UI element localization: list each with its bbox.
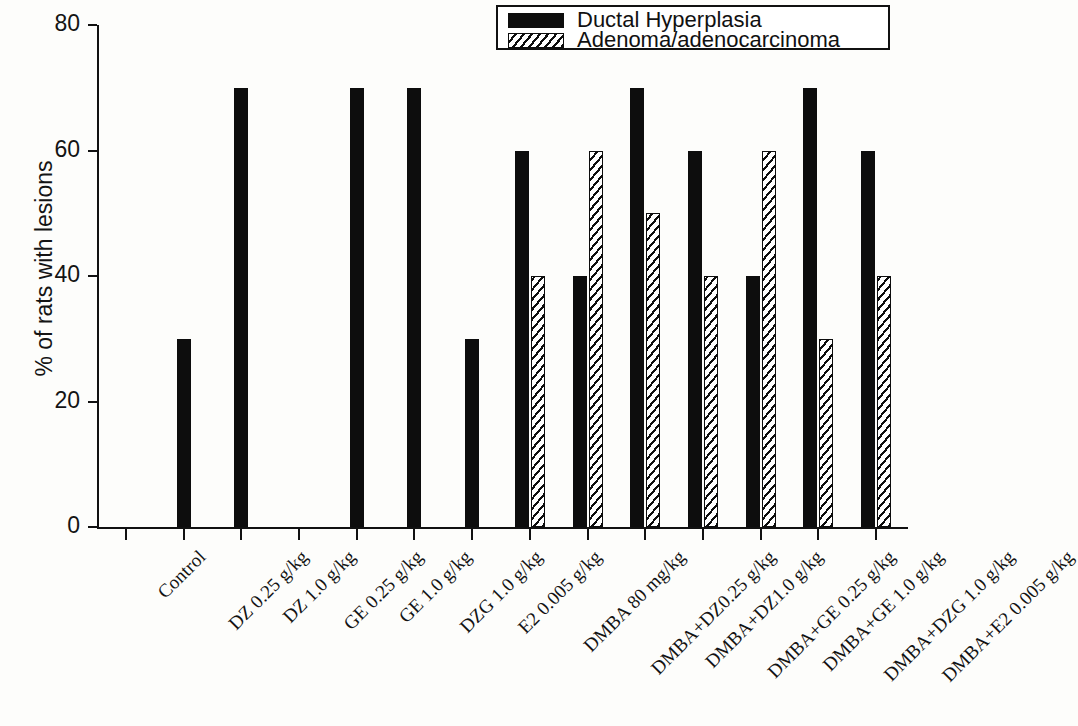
bar-ductal-hyperplasia-2 (234, 88, 248, 527)
bar-ductal-hyperplasia-11 (746, 276, 760, 527)
y-axis-tick (88, 275, 97, 277)
bar-adenoma-adenocarcinoma-7 (531, 276, 545, 527)
x-axis-tick (413, 529, 415, 540)
y-axis-tick (88, 526, 97, 528)
x-axis-tick (817, 529, 819, 540)
x-axis-labels: ControlDZ 0.25 g/kgDZ 1.0 g/kgGE 0.25 g/… (0, 540, 916, 726)
bar-adenoma-adenocarcinoma-12 (819, 339, 833, 527)
x-axis-tick (183, 529, 185, 540)
bar-adenoma-adenocarcinoma-11 (762, 151, 776, 528)
bar-ductal-hyperplasia-4 (350, 88, 364, 527)
x-axis-tick (529, 529, 531, 540)
y-axis-tick (88, 24, 97, 26)
y-axis-tick-label: 60 (0, 136, 80, 163)
x-axis-tick (760, 529, 762, 540)
x-axis-tick (875, 529, 877, 540)
x-axis-tick (240, 529, 242, 540)
bar-ductal-hyperplasia-8 (573, 276, 587, 527)
bar-ductal-hyperplasia-1 (177, 339, 191, 527)
y-axis-tick-label: 0 (0, 512, 80, 539)
bar-ductal-hyperplasia-10 (688, 151, 702, 528)
bar-ductal-hyperplasia-7 (515, 151, 529, 528)
x-axis-tick (644, 529, 646, 540)
bar-adenoma-adenocarcinoma-9 (646, 213, 660, 527)
legend-label: Adenoma/adenocarcinoma (577, 27, 840, 53)
x-axis-tick (298, 529, 300, 540)
x-axis-tick (471, 529, 473, 540)
y-axis-tick-label: 20 (0, 387, 80, 414)
bar-ductal-hyperplasia-12 (803, 88, 817, 527)
legend-hatched-swatch-icon (508, 33, 564, 48)
x-axis-tick (702, 529, 704, 540)
legend-solid-swatch-icon (508, 13, 564, 28)
bar-adenoma-adenocarcinoma-10 (704, 276, 718, 527)
legend-entry-adenoma-adenocarcinoma: Adenoma/adenocarcinoma (508, 30, 840, 50)
x-axis-category-label: Control (153, 546, 210, 603)
legend-box: Ductal Hyperplasia Adenoma/adenocarcinom… (496, 5, 890, 50)
bar-ductal-hyperplasia-5 (407, 88, 421, 527)
x-axis-tick (356, 529, 358, 540)
bar-adenoma-adenocarcinoma-8 (589, 151, 603, 528)
x-axis-spine (97, 527, 908, 529)
bar-ductal-hyperplasia-9 (630, 88, 644, 527)
y-axis-tick (88, 401, 97, 403)
x-axis-tick (125, 529, 127, 540)
y-axis-tick-label: 40 (0, 261, 80, 288)
plot-area (97, 25, 905, 527)
y-axis-tick-label: 80 (0, 10, 80, 37)
bar-ductal-hyperplasia-6 (465, 339, 479, 527)
bar-adenoma-adenocarcinoma-13 (877, 276, 891, 527)
y-axis-tick (88, 150, 97, 152)
bar-ductal-hyperplasia-13 (861, 151, 875, 528)
x-axis-tick (587, 529, 589, 540)
scan-artifact-text (30, 0, 490, 7)
